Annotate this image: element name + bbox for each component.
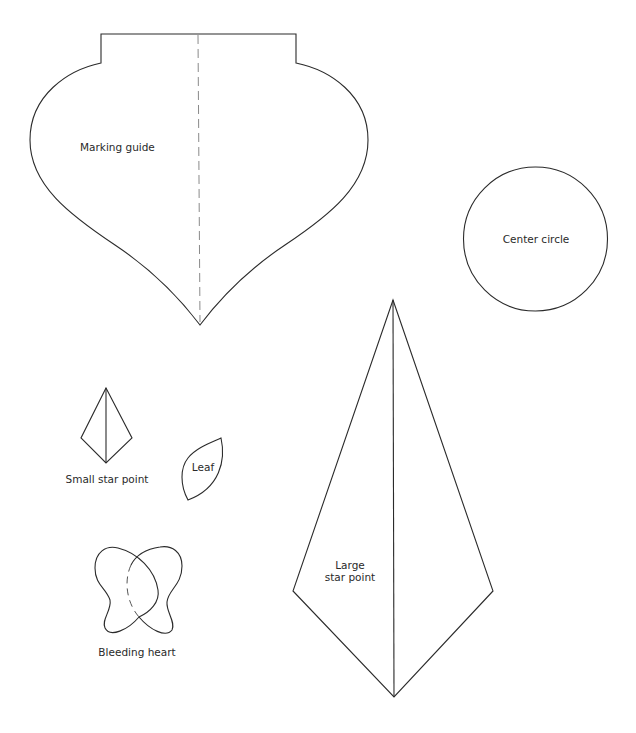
marking-guide-shape xyxy=(30,34,368,325)
bleeding-heart-shape xyxy=(95,547,182,634)
templates-canvas xyxy=(0,0,636,733)
bleeding-heart-label: Bleeding heart xyxy=(98,646,175,658)
center-circle-label: Center circle xyxy=(503,233,570,245)
large-star-point-label-line2: star point xyxy=(325,571,375,583)
small-star-point-shape xyxy=(81,388,132,463)
large-star-point-shape xyxy=(293,300,493,697)
large-star-point-label-line1: Large xyxy=(335,559,365,571)
marking-guide-label: Marking guide xyxy=(80,141,155,153)
fold-line xyxy=(198,35,200,322)
small-star-point-label: Small star point xyxy=(66,473,149,485)
leaf-label: Leaf xyxy=(192,461,214,473)
